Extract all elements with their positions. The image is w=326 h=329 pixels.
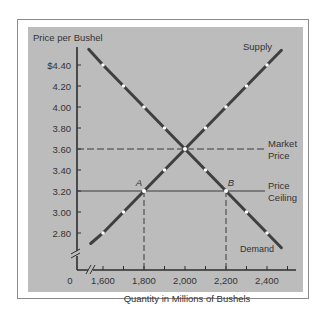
demand-marker	[245, 210, 249, 214]
x-tick-label: 1,800	[132, 275, 156, 286]
supply-marker	[101, 231, 105, 235]
price-ceiling-label: Ceiling	[268, 192, 297, 203]
point-b	[224, 189, 228, 193]
x-tick-label: 2,200	[214, 275, 238, 286]
x-axis-title: Quantity in Millions of Bushels	[124, 293, 251, 304]
supply-demand-chart: Price per Bushel Quantity in Millions of…	[0, 0, 326, 329]
y-tick-label: 3.20	[53, 186, 72, 197]
supply-marker	[204, 126, 208, 130]
y-tick-label: 4.20	[53, 81, 72, 92]
point-a	[142, 189, 146, 193]
point-b-label: B	[228, 177, 235, 188]
supply-marker	[163, 168, 167, 172]
y-tick-label: 3.60	[53, 144, 72, 155]
x-tick-label: 2,000	[173, 275, 197, 286]
market-price-label: Market	[268, 138, 297, 149]
supply-curve	[91, 50, 282, 243]
demand-marker	[101, 63, 105, 67]
y-tick-label: 3.80	[53, 123, 72, 134]
supply-marker	[265, 63, 269, 67]
demand-marker	[265, 231, 269, 235]
y-tick-label: 3.00	[53, 207, 72, 218]
equilibrium-point	[183, 147, 187, 151]
y-tick-label: $4.40	[47, 60, 71, 71]
supply-label: Supply	[243, 41, 272, 52]
demand-marker	[142, 105, 146, 109]
market-price-label: Price	[268, 150, 290, 161]
point-a-label: A	[135, 177, 142, 188]
y-tick-label: 4.00	[53, 102, 72, 113]
demand-marker	[163, 126, 167, 130]
x-tick-label: 2,400	[255, 275, 279, 286]
price-ceiling-label: Price	[268, 180, 290, 191]
supply-marker	[122, 210, 126, 214]
y-axis-title: Price per Bushel	[33, 32, 103, 43]
demand-label: Demand	[240, 244, 274, 254]
demand-marker	[122, 84, 126, 88]
supply-marker	[224, 105, 228, 109]
y-tick-label: 2.80	[53, 228, 72, 239]
y-tick-label: 3.40	[53, 165, 72, 176]
x-origin-label: 0	[67, 275, 72, 286]
supply-marker	[245, 84, 249, 88]
demand-marker	[204, 168, 208, 172]
x-tick-label: 1,600	[91, 275, 115, 286]
